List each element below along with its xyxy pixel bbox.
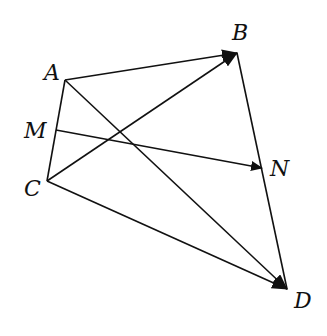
vector-cb bbox=[47, 53, 237, 181]
point-label-m: M bbox=[23, 118, 47, 143]
point-label-b: B bbox=[231, 20, 248, 45]
vector-ab bbox=[65, 53, 237, 80]
point-label-n: N bbox=[269, 156, 290, 181]
point-label-a: A bbox=[42, 60, 60, 85]
vector-cd bbox=[47, 181, 287, 289]
vector-ad bbox=[65, 80, 287, 289]
point-label-c: C bbox=[24, 176, 41, 201]
vector-diagram: ABMNCD bbox=[0, 0, 327, 336]
point-label-d: D bbox=[293, 288, 312, 313]
vector-mn bbox=[56, 130, 262, 168]
diagram-canvas: ABMNCD bbox=[0, 0, 327, 336]
